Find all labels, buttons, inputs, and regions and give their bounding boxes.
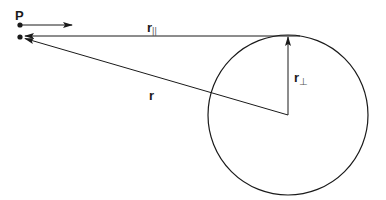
label-p: P: [15, 8, 24, 23]
r-arrow: [25, 39, 288, 116]
label-r-parallel: r||: [147, 20, 157, 36]
point-p-dot: [17, 22, 22, 27]
label-r: r: [149, 88, 154, 103]
point-dot: [17, 34, 22, 39]
label-r-perp: r⊥: [294, 70, 308, 87]
label-r-perp-sub: ⊥: [299, 76, 308, 87]
diagram-canvas: P r|| r r⊥: [0, 0, 386, 200]
label-r-parallel-sub: ||: [152, 26, 157, 36]
